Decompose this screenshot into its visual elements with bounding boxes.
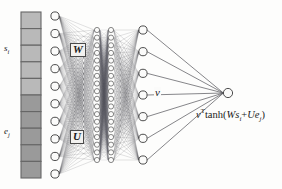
hidden-node-layer1 [51, 117, 59, 125]
weight-label-w: W [70, 43, 86, 57]
input-vector-cell [21, 128, 41, 145]
hidden-node-layer3 [108, 43, 113, 48]
hidden-node-layer1 [51, 29, 59, 37]
hidden-node-layer3 [108, 96, 113, 101]
input-vector-cell [21, 145, 41, 162]
hidden-node-layer2 [94, 142, 99, 147]
hidden-node-layer3 [108, 134, 113, 139]
hidden-node-layer3 [108, 157, 113, 162]
input-vector-cell [21, 161, 41, 178]
hidden-node-layer3 [108, 81, 113, 86]
hidden-node-layer1 [51, 12, 59, 20]
hidden-node-layer4 [139, 26, 147, 34]
hidden-node-layer3 [108, 66, 113, 71]
formula-tanh: tanh( [205, 109, 227, 120]
hidden-node-layer3 [108, 35, 113, 40]
node-group [21, 12, 233, 178]
hidden-node-layer3 [108, 73, 113, 78]
hidden-node-layer2 [94, 35, 99, 40]
weight-label-u: U [70, 130, 84, 144]
hidden-node-layer2 [94, 157, 99, 162]
hidden-node-layer1 [51, 47, 59, 55]
hidden-node-layer2 [94, 66, 99, 71]
hidden-node-layer2 [94, 96, 99, 101]
hidden-node-layer2 [94, 50, 99, 55]
hidden-node-layer1 [51, 65, 59, 73]
hidden-node-layer1 [51, 82, 59, 90]
output-formula: vTtanh(Wsi+Uej) [196, 108, 265, 123]
hidden-node-layer2 [94, 119, 99, 124]
hidden-node-layer4 [139, 91, 147, 99]
formula-close-paren: ) [261, 109, 265, 120]
edge [59, 16, 94, 30]
input-vector-cell [21, 29, 41, 46]
hidden-node-layer2 [94, 134, 99, 139]
hidden-node-layer4 [139, 134, 147, 142]
neural-network-diagram: si ej W U v vTtanh(Wsi+Uej) [0, 0, 282, 189]
formula-U: U [247, 109, 255, 120]
edge-output [147, 93, 223, 160]
input-label-si: si [4, 44, 9, 55]
hidden-node-layer4 [139, 156, 147, 164]
hidden-node-layer3 [108, 58, 113, 63]
hidden-node-layer2 [94, 89, 99, 94]
hidden-node-layer3 [108, 50, 113, 55]
edge [114, 30, 139, 38]
input-label-si-subscript: i [8, 48, 10, 55]
hidden-node-layer1 [51, 152, 59, 160]
input-vector-cell [21, 78, 41, 95]
output-node [223, 88, 232, 97]
hidden-node-layer1 [51, 170, 59, 178]
hidden-node-layer3 [108, 89, 113, 94]
input-vector-cell [21, 112, 41, 129]
hidden-node-layer3 [108, 112, 113, 117]
input-label-ej: ej [4, 127, 10, 138]
input-label-ej-subscript: j [8, 131, 10, 138]
hidden-node-layer3 [108, 142, 113, 147]
hidden-node-layer4 [139, 69, 147, 77]
network-graphic [0, 0, 282, 189]
hidden-node-layer2 [94, 43, 99, 48]
hidden-node-layer1 [51, 100, 59, 108]
hidden-node-layer3 [108, 104, 113, 109]
input-vector-cell [21, 95, 41, 112]
hidden-node-layer2 [94, 127, 99, 132]
hidden-node-layer2 [94, 104, 99, 109]
hidden-node-layer2 [94, 81, 99, 86]
hidden-node-layer1 [51, 135, 59, 143]
hidden-node-layer3 [108, 127, 113, 132]
hidden-node-layer3 [108, 119, 113, 124]
hidden-node-layer4 [139, 113, 147, 121]
hidden-node-layer3 [108, 27, 113, 32]
edge [59, 160, 94, 174]
input-vector-cell [21, 45, 41, 62]
hidden-node-layer2 [94, 112, 99, 117]
formula-W: W [227, 109, 236, 120]
hidden-node-layer4 [139, 48, 147, 56]
hidden-node-layer2 [94, 73, 99, 78]
input-vector-cell [21, 12, 41, 29]
hidden-node-layer2 [94, 27, 99, 32]
hidden-node-layer2 [94, 58, 99, 63]
hidden-node-layer2 [94, 150, 99, 155]
hidden-node-layer3 [108, 150, 113, 155]
input-vector-cell [21, 62, 41, 79]
weight-label-v: v [154, 87, 161, 98]
